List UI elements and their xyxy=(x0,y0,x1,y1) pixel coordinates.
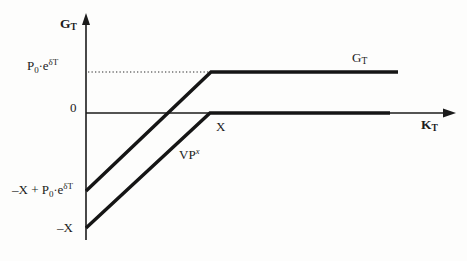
intercept-upper-exponent: δT xyxy=(63,181,73,191)
x-axis-label: KT xyxy=(421,118,438,132)
x-axis-label-sub: T xyxy=(432,123,438,133)
y-axis-label: GT xyxy=(60,17,77,31)
level-label-exponent: δT xyxy=(49,57,59,67)
y-axis-label-main: G xyxy=(60,16,71,31)
intercept-label-lower: –X xyxy=(57,221,73,234)
x-tick-label: X xyxy=(216,120,225,133)
x-axis-label-main: K xyxy=(421,117,432,132)
intercept-label-upper: –X + P0·eδT xyxy=(12,183,73,196)
curve-label-vpx: VPx xyxy=(179,148,199,161)
intercept-upper-lead: –X + P xyxy=(12,182,49,197)
level-label-base: e xyxy=(43,58,49,73)
curve-label-gt-sub: T xyxy=(361,56,367,66)
curve-label-vpx-main: VP xyxy=(179,147,196,162)
curve-label-gt-main: G xyxy=(352,50,361,65)
level-label-sub: 0 xyxy=(34,65,39,75)
y-axis-arrowhead xyxy=(82,13,90,25)
y-axis-label-sub: T xyxy=(71,22,77,32)
curve-label-vpx-sup: x xyxy=(196,146,200,156)
level-label-p0edt: P0·eδT xyxy=(27,59,58,72)
curve-label-gt: GT xyxy=(352,51,367,65)
curve-lower-vpx xyxy=(86,113,390,228)
curve-upper-gt xyxy=(86,72,398,191)
figure-canvas: GT KT 0 X P0·eδT –X + P0·eδT –X GT VPx xyxy=(0,0,467,261)
x-axis-arrowhead xyxy=(443,109,456,118)
origin-tick-label: 0 xyxy=(70,101,77,114)
intercept-upper-sub: 0 xyxy=(49,189,54,199)
